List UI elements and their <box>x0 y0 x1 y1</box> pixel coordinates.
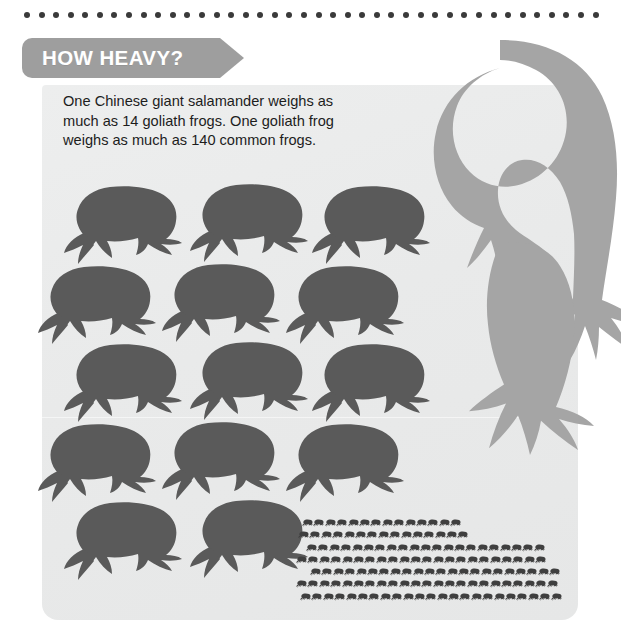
dot-icon <box>243 12 249 18</box>
mini-frog-silhouette-icon <box>547 578 558 590</box>
mini-frog-silhouette-icon <box>469 566 480 578</box>
mini-frog-silhouette-icon <box>490 554 501 566</box>
dot-icon <box>432 12 438 18</box>
mini-frog-silhouette-icon <box>424 566 435 578</box>
mini-frog-silhouette-icon <box>512 578 523 590</box>
mini-frog-silhouette-icon <box>330 578 341 590</box>
mini-frog-silhouette-icon <box>298 529 309 541</box>
mini-frog-silhouette-icon <box>500 542 511 554</box>
mini-frog-silhouette-icon <box>311 591 322 603</box>
mini-frog-silhouette-icon <box>416 517 427 529</box>
dot-icon <box>418 12 424 18</box>
mini-frog-silhouette-icon <box>389 529 400 541</box>
mini-frog-silhouette-icon <box>435 529 446 541</box>
mini-frog-silhouette-icon <box>399 578 410 590</box>
mini-frog-silhouette-icon <box>342 554 353 566</box>
mini-frog-silhouette-icon <box>367 566 378 578</box>
dot-icon <box>388 12 394 18</box>
mini-frog-silhouette-icon <box>433 578 444 590</box>
common-frog-row <box>306 542 578 554</box>
mini-frog-silhouette-icon <box>359 517 370 529</box>
dot-icon <box>97 12 103 18</box>
dot-icon <box>214 12 220 18</box>
dot-icon <box>53 12 59 18</box>
dot-icon <box>491 12 497 18</box>
mini-frog-silhouette-icon <box>399 554 410 566</box>
mini-frog-silhouette-icon <box>478 554 489 566</box>
dot-icon <box>155 12 161 18</box>
frog-silhouette-icon <box>190 500 308 578</box>
dot-icon <box>228 12 234 18</box>
mini-frog-silhouette-icon <box>319 554 330 566</box>
mini-frog-silhouette-icon <box>446 529 457 541</box>
mini-frog-silhouette-icon <box>357 591 368 603</box>
mini-frog-silhouette-icon <box>455 578 466 590</box>
common-frog-row <box>296 578 578 590</box>
mini-frog-silhouette-icon <box>450 517 461 529</box>
mini-frog-silhouette-icon <box>376 578 387 590</box>
mini-frog-silhouette-icon <box>329 542 340 554</box>
dot-icon <box>39 12 45 18</box>
mini-frog-silhouette-icon <box>492 566 503 578</box>
mini-frog-silhouette-icon <box>467 578 478 590</box>
mini-frog-silhouette-icon <box>319 578 330 590</box>
dot-icon <box>184 12 190 18</box>
mini-frog-silhouette-icon <box>471 591 482 603</box>
mini-frog-silhouette-icon <box>348 517 359 529</box>
dot-icon <box>199 12 205 18</box>
common-frog-row <box>296 554 578 566</box>
mini-frog-silhouette-icon <box>539 591 550 603</box>
mini-frog-silhouette-icon <box>448 591 459 603</box>
mini-frog-silhouette-icon <box>401 529 412 541</box>
mini-frog-silhouette-icon <box>346 591 357 603</box>
dot-icon <box>520 12 526 18</box>
mini-frog-silhouette-icon <box>522 542 533 554</box>
mini-frog-silhouette-icon <box>501 578 512 590</box>
mini-frog-silhouette-icon <box>387 554 398 566</box>
mini-frog-silhouette-icon <box>302 517 313 529</box>
mini-frog-silhouette-icon <box>538 566 549 578</box>
frog-silhouette-icon <box>64 502 182 580</box>
mini-frog-silhouette-icon <box>535 554 546 566</box>
mini-frog-silhouette-icon <box>526 566 537 578</box>
dot-icon <box>286 12 292 18</box>
mini-frog-silhouette-icon <box>364 578 375 590</box>
mini-frog-silhouette-icon <box>494 591 505 603</box>
figure-caption: One Chinese giant salamander weighs as m… <box>63 92 363 151</box>
mini-frog-silhouette-icon <box>443 542 454 554</box>
mini-frog-silhouette-icon <box>465 542 476 554</box>
mini-frog-silhouette-icon <box>412 529 423 541</box>
dot-icon <box>345 12 351 18</box>
mini-frog-silhouette-icon <box>427 517 438 529</box>
mini-frog-silhouette-icon <box>458 566 469 578</box>
mini-frog-silhouette-icon <box>353 554 364 566</box>
mini-frog-silhouette-icon <box>342 578 353 590</box>
section-banner: HOW HEAVY? <box>22 38 250 78</box>
mini-frog-silhouette-icon <box>454 542 465 554</box>
mini-frog-silhouette-icon <box>405 517 416 529</box>
frog-silhouette-icon <box>286 266 404 344</box>
mini-frog-silhouette-icon <box>306 542 317 554</box>
dot-icon <box>82 12 88 18</box>
dot-icon <box>403 12 409 18</box>
mini-frog-silhouette-icon <box>516 591 527 603</box>
dot-icon <box>359 12 365 18</box>
dot-icon <box>374 12 380 18</box>
mini-frog-silhouette-icon <box>364 554 375 566</box>
mini-frog-silhouette-icon <box>421 554 432 566</box>
mini-frog-silhouette-icon <box>431 542 442 554</box>
frog-silhouette-icon <box>312 344 430 422</box>
mini-frog-silhouette-icon <box>478 578 489 590</box>
mini-frog-silhouette-icon <box>410 554 421 566</box>
mini-frog-silhouette-icon <box>333 566 344 578</box>
mini-frog-silhouette-icon <box>459 591 470 603</box>
mini-frog-silhouette-icon <box>490 578 501 590</box>
mini-frog-silhouette-icon <box>352 542 363 554</box>
mini-frog-silhouette-icon <box>444 554 455 566</box>
mini-frog-silhouette-icon <box>467 554 478 566</box>
mini-frog-silhouette-icon <box>353 578 364 590</box>
mini-frog-silhouette-icon <box>433 554 444 566</box>
mini-frog-silhouette-icon <box>482 591 493 603</box>
mini-frog-silhouette-icon <box>423 529 434 541</box>
dot-icon <box>578 12 584 18</box>
